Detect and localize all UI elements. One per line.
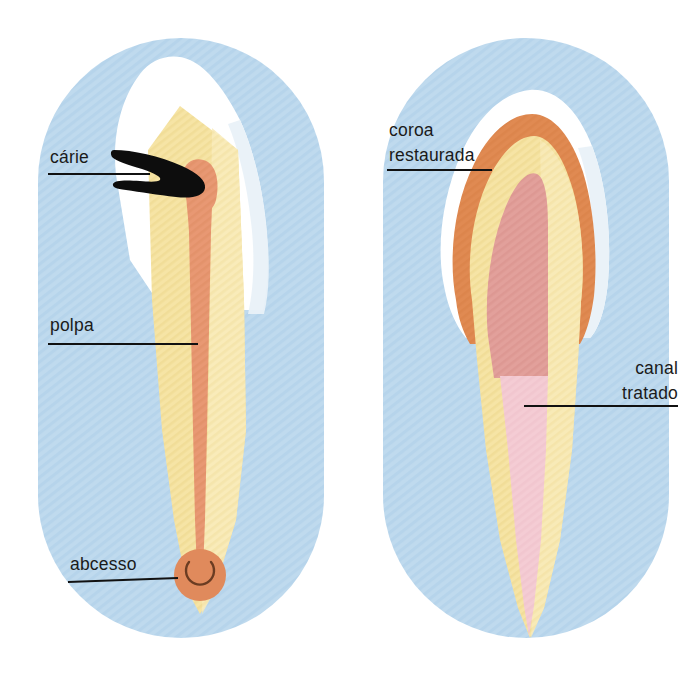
filling-shape-lower — [488, 336, 548, 378]
right-panel: coroa restaurada canal tratado — [383, 38, 678, 638]
diagram-canvas: cárie polpa abcesso — [0, 0, 692, 673]
abscess-group — [174, 549, 226, 601]
dental-diagram: cárie polpa abcesso — [0, 0, 692, 673]
label-coroa-line1: coroa — [389, 120, 434, 140]
label-polpa-text: polpa — [50, 315, 94, 335]
label-carie-text: cárie — [50, 147, 89, 167]
left-panel: cárie polpa abcesso — [38, 38, 324, 638]
abscess-disc — [174, 549, 226, 601]
label-canal-line2: tratado — [622, 383, 678, 403]
label-coroa-line2: restaurada — [389, 145, 475, 165]
label-abcesso-text: abcesso — [70, 554, 137, 574]
label-canal-line1: canal — [635, 358, 678, 378]
